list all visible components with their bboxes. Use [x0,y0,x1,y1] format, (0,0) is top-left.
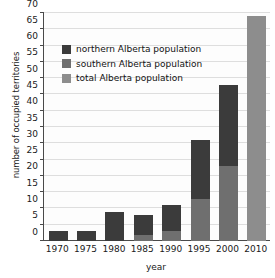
legend-label: northern Alberta population [76,44,201,54]
bar-2010[interactable] [247,13,266,241]
bar-segment [134,235,153,242]
legend-swatch-icon [62,45,71,54]
x-tick-label: 2000 [216,244,239,254]
legend-label: total Alberta population [76,73,183,83]
legend-label: southern Alberta population [76,59,202,69]
y-tick-label: 35 [27,113,38,123]
bar-segment [191,140,210,199]
y-tick-label: 0 [32,227,38,237]
bar-segment [162,205,181,231]
bar-chart: number of occupied territories 051015202… [0,0,275,278]
legend-item[interactable]: total Alberta population [62,73,202,83]
bar-segment [219,166,238,241]
x-tick-label: 1990 [159,244,182,254]
x-tick-label: 1995 [188,244,211,254]
y-tick-label: 40 [27,96,38,106]
y-tick-label: 20 [27,161,38,171]
y-tick-label: 45 [27,80,38,90]
bar-segment [105,212,124,241]
x-tick-label: 1980 [102,244,125,254]
legend-swatch-icon [62,74,71,83]
y-tick-label: 25 [27,145,38,155]
y-axis-title: number of occupied territories [11,20,21,210]
y-tick-label: 65 [27,15,38,25]
legend-swatch-icon [62,59,71,68]
bar-2000[interactable] [219,13,238,241]
bar-segment [191,199,210,241]
legend-item[interactable]: southern Alberta population [62,59,202,69]
x-tick-label: 1975 [74,244,97,254]
y-tick-label: 10 [27,194,38,204]
x-axis-title: year [40,262,272,272]
bar-segment [134,215,153,235]
chart-legend: northern Alberta populationsouthern Albe… [62,44,202,83]
y-tick-label: 30 [27,129,38,139]
x-tick-label: 2010 [244,244,267,254]
bar-segment [49,231,68,241]
y-tick-label: 60 [27,31,38,41]
y-tick-label: 50 [27,64,38,74]
bar-segment [219,85,238,166]
y-tick-label: 5 [32,210,38,220]
bar-segment [77,231,96,241]
legend-item[interactable]: northern Alberta population [62,44,202,54]
y-tick-label: 15 [27,178,38,188]
y-tick-label: 55 [27,47,38,57]
x-tick-label: 1970 [46,244,69,254]
x-tick-label: 1985 [131,244,154,254]
bar-segment [162,231,181,241]
bar-segment [247,16,266,241]
y-tick-label: 70 [27,0,38,9]
